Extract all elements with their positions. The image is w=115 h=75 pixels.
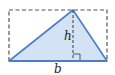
triangle — [9, 10, 107, 61]
triangle-area-diagram: h b — [0, 0, 115, 75]
height-label: h — [64, 29, 72, 43]
base-label: b — [54, 62, 62, 75]
